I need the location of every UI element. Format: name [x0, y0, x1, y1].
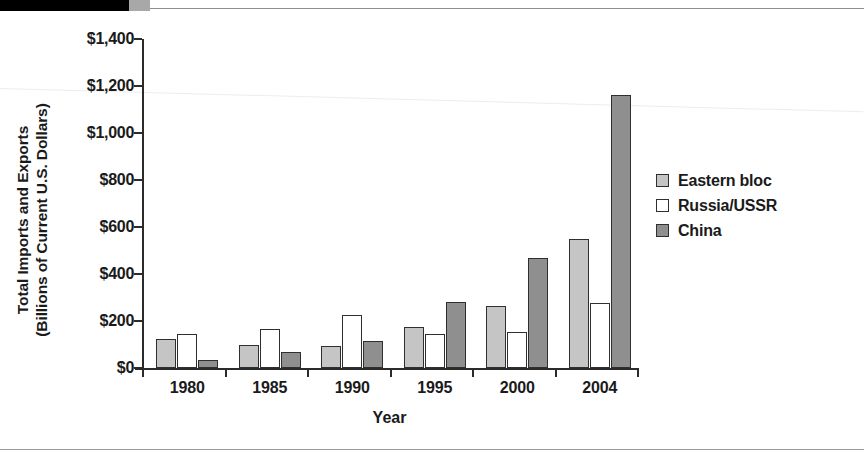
- y-axis-title-line-2: (Billions of Current U.S. Dollars): [32, 70, 51, 370]
- y-axis-tick-mark: [134, 273, 142, 275]
- bar-1985-eastern-bloc[interactable]: [239, 345, 259, 369]
- bar-1980-china[interactable]: [198, 360, 218, 368]
- y-axis-tick-label: $600: [50, 218, 134, 236]
- bar-group-1990: [321, 39, 383, 368]
- bar-1980-eastern-bloc[interactable]: [156, 339, 176, 368]
- y-axis-tick-label: $1,400: [50, 30, 134, 48]
- x-axis-tick-label-1980: 1980: [142, 379, 232, 397]
- bar-1980-russia-ussr[interactable]: [177, 334, 197, 368]
- y-axis-tick-mark: [134, 179, 142, 181]
- bar-group-2000: [486, 39, 548, 368]
- bar-2000-eastern-bloc[interactable]: [486, 306, 506, 368]
- y-axis-line: [142, 39, 144, 370]
- legend-label: Russia/USSR: [678, 197, 777, 215]
- bar-chart: Total Imports and Exports (Billions of C…: [0, 11, 864, 449]
- bar-1985-china[interactable]: [281, 352, 301, 368]
- bar-2000-china[interactable]: [528, 258, 548, 368]
- legend-item-eastern-bloc[interactable]: Eastern bloc: [656, 168, 856, 193]
- bar-2000-russia-ussr[interactable]: [507, 332, 527, 368]
- x-axis-tick-mark: [225, 368, 227, 377]
- bar-2004-russia-ussr[interactable]: [590, 303, 610, 368]
- x-axis-tick-label-1985: 1985: [225, 379, 315, 397]
- bar-group-1995: [404, 39, 466, 368]
- bar-group-2004: [569, 39, 631, 368]
- chart-legend: Eastern blocRussia/USSRChina: [656, 168, 856, 243]
- y-axis-title-line-1: Total Imports and Exports: [13, 70, 32, 370]
- legend-swatch-icon: [656, 174, 669, 187]
- bar-1995-china[interactable]: [446, 302, 466, 368]
- scan-artifact-gray-bar: [129, 0, 150, 11]
- y-axis-tick-label: $1,000: [50, 124, 134, 142]
- legend-label: Eastern bloc: [678, 172, 772, 190]
- page-bottom-rule: [0, 449, 864, 450]
- x-axis-tick-label-2000: 2000: [472, 379, 562, 397]
- y-axis-tick-mark: [134, 367, 142, 369]
- bar-1995-russia-ussr[interactable]: [425, 334, 445, 368]
- y-axis-tick-label: $200: [50, 312, 134, 330]
- x-axis-tick-mark: [307, 368, 309, 377]
- x-axis-tick-mark: [390, 368, 392, 377]
- bar-2004-eastern-bloc[interactable]: [569, 239, 589, 368]
- y-axis-tick-label: $1,200: [50, 77, 134, 95]
- legend-swatch-icon: [656, 199, 669, 212]
- bar-1985-russia-ussr[interactable]: [260, 329, 280, 368]
- x-axis-tick-mark: [637, 368, 639, 377]
- x-axis-tick-mark: [555, 368, 557, 377]
- x-axis-title: Year: [142, 409, 637, 427]
- y-axis-tick-labels: $0$200$400$600$800$1,000$1,200$1,400: [50, 11, 134, 449]
- legend-label: China: [678, 222, 721, 240]
- x-axis-tick-label-1995: 1995: [390, 379, 480, 397]
- bar-1990-china[interactable]: [363, 341, 383, 368]
- x-axis-tick-label-1990: 1990: [307, 379, 397, 397]
- y-axis-tick-mark: [134, 132, 142, 134]
- bar-1990-russia-ussr[interactable]: [342, 315, 362, 368]
- y-axis-tick-mark: [134, 226, 142, 228]
- y-axis-title: Total Imports and Exports (Billions of C…: [13, 70, 51, 370]
- y-axis-tick-mark: [134, 85, 142, 87]
- y-axis-tick-label: $800: [50, 171, 134, 189]
- legend-item-china[interactable]: China: [656, 218, 856, 243]
- y-axis-tick-label: $0: [50, 359, 134, 377]
- bar-group-1985: [239, 39, 301, 368]
- scan-artifact-black-bar: [0, 0, 129, 11]
- y-axis-tick-label: $400: [50, 265, 134, 283]
- plot-area: 198019851990199520002004: [142, 39, 637, 368]
- bar-group-1980: [156, 39, 218, 368]
- x-axis-tick-label-2004: 2004: [555, 379, 645, 397]
- page-top-rule: [150, 8, 864, 9]
- y-axis-tick-mark: [134, 320, 142, 322]
- y-axis-tick-mark: [134, 38, 142, 40]
- legend-swatch-icon: [656, 224, 669, 237]
- bar-1995-eastern-bloc[interactable]: [404, 327, 424, 368]
- x-axis-tick-mark: [142, 368, 144, 377]
- x-axis-tick-mark: [472, 368, 474, 377]
- bar-1990-eastern-bloc[interactable]: [321, 346, 341, 368]
- legend-item-russia-ussr[interactable]: Russia/USSR: [656, 193, 856, 218]
- x-axis-line: [135, 368, 639, 370]
- bar-2004-china[interactable]: [611, 95, 631, 368]
